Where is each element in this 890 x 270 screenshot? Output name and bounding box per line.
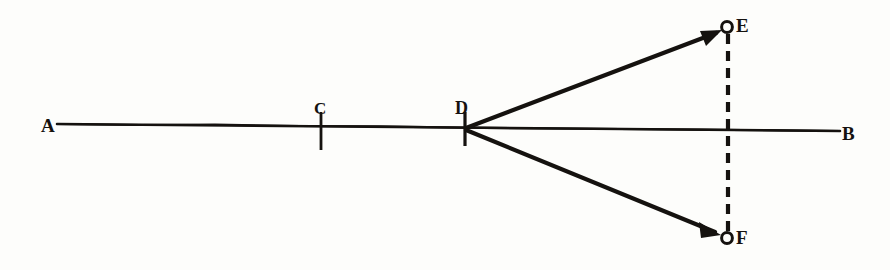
- arrowhead-f: [699, 222, 721, 238]
- label-d: D: [455, 99, 468, 118]
- label-e: E: [736, 16, 749, 35]
- label-f: F: [736, 228, 748, 247]
- line-ab-texture: [57, 124, 840, 131]
- figure-canvas: [0, 0, 890, 270]
- arrowhead-e: [700, 30, 722, 46]
- label-a: A: [41, 116, 55, 135]
- geometry-figure: A B C D E F: [0, 0, 890, 270]
- point-f-circle: [722, 233, 733, 244]
- point-e-circle: [722, 22, 733, 33]
- ray-d-to-e: [466, 33, 716, 128]
- label-c: C: [314, 99, 326, 118]
- label-b: B: [842, 124, 855, 143]
- ray-d-to-f: [466, 130, 715, 232]
